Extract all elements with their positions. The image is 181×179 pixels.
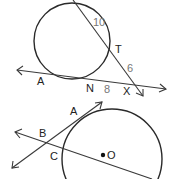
label-point-a-bottom: A	[70, 105, 78, 117]
label-8: 8	[104, 83, 110, 95]
top-circle	[34, 3, 110, 79]
label-6: 6	[127, 62, 133, 74]
label-10: 10	[93, 16, 105, 28]
bottom-figure: A B C O	[12, 102, 162, 179]
label-point-x: X	[123, 85, 131, 97]
label-point-b: B	[39, 127, 46, 139]
label-point-c: C	[50, 150, 58, 162]
label-point-t: T	[115, 43, 122, 55]
secant-line-bc	[15, 132, 152, 179]
label-point-a-top: A	[37, 75, 45, 87]
center-point-o	[101, 153, 105, 157]
label-center-o: O	[107, 149, 116, 161]
top-figure: 10 T 6 A N 8 X	[17, 0, 166, 97]
label-point-n: N	[86, 82, 94, 94]
bottom-circle	[62, 109, 162, 179]
geometry-diagram: 10 T 6 A N 8 X A B C O	[0, 0, 181, 179]
